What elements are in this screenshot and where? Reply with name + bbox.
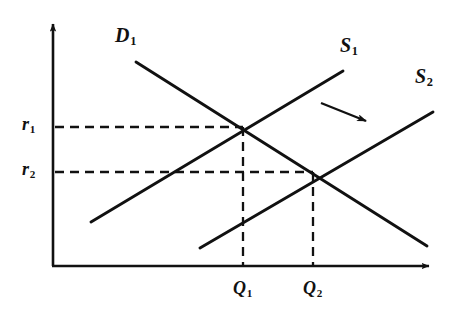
curve-label-s1: S1: [340, 35, 358, 58]
y-axis-label-r2-text: r: [22, 159, 29, 179]
curve-label-d1-subscript: 1: [130, 34, 136, 48]
diagram-canvas: [0, 0, 460, 322]
x-axis-label-q2-text: Q: [303, 278, 316, 298]
x-axis-label-q1-text: Q: [233, 278, 246, 298]
curve-label-s2-text: S: [415, 65, 426, 87]
supply-shift-arrow: [321, 103, 366, 121]
curve-label-s2: S2: [415, 66, 433, 89]
y-axis-label-r1-subscript: 1: [30, 123, 36, 135]
y-axis-label-r2: r2: [22, 160, 35, 180]
x-axis-label-q1: Q1: [233, 279, 252, 299]
curve-label-d1: D1: [115, 25, 136, 48]
supply-curve-s1: [91, 71, 343, 222]
guide-lines-group: [55, 127, 313, 265]
curves-group: [91, 62, 433, 248]
y-axis-label-r1-text: r: [22, 114, 29, 134]
y-axis-label-r2-subscript: 2: [30, 168, 36, 180]
x-axis-label-q1-subscript: 1: [247, 287, 253, 299]
y-axis-label-r1: r1: [22, 115, 35, 135]
demand-curve-d1: [136, 62, 427, 246]
axes-group: [52, 24, 429, 266]
curve-label-s2-subscript: 2: [427, 75, 433, 89]
x-axis-label-q2-subscript: 2: [317, 287, 323, 299]
curve-label-d1-text: D: [115, 24, 129, 46]
x-axis-label-q2: Q2: [303, 279, 322, 299]
curve-label-s1-text: S: [340, 34, 351, 56]
supply-demand-figure: D1 S1 S2 r1 r2 Q1 Q2: [0, 0, 460, 322]
curve-label-s1-subscript: 1: [352, 44, 358, 58]
supply-shift-arrow-line: [321, 103, 366, 121]
